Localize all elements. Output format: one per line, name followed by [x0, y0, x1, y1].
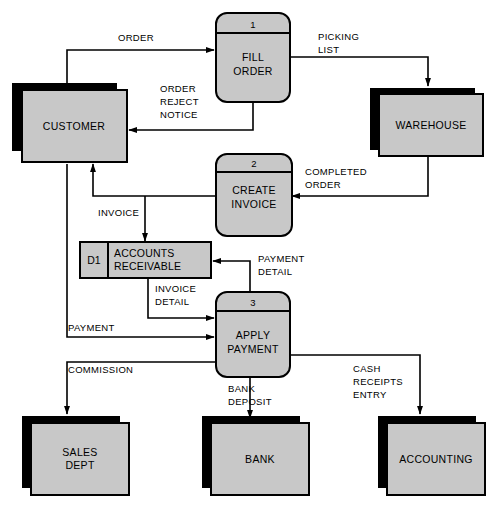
- flow-payment-detail-label-line1: PAYMENT: [258, 253, 305, 264]
- entity-sales-dept-label-line2: DEPT: [65, 459, 94, 471]
- process-fill-order-number: 1: [250, 19, 255, 30]
- process-fill-order-label-line1: FILL: [242, 51, 264, 63]
- flow-completed-order-label-line1: COMPLETED: [305, 166, 367, 177]
- entity-bank[interactable]: BANK: [202, 416, 309, 495]
- flow-order-reject-notice-label-line3: NOTICE: [160, 109, 198, 120]
- entity-customer[interactable]: CUSTOMER: [12, 83, 127, 162]
- flow-order-reject-notice-label-line2: REJECT: [160, 96, 199, 107]
- entity-bank-label: BANK: [245, 453, 275, 465]
- flow-commission-label: COMMISSION: [68, 364, 133, 375]
- process-fill-order[interactable]: 1 FILL ORDER: [216, 13, 290, 102]
- process-apply-payment-number: 3: [250, 297, 255, 308]
- process-apply-payment[interactable]: 3 APPLY PAYMENT: [216, 292, 290, 377]
- flow-payment-label: PAYMENT: [68, 322, 115, 333]
- flow-order-label: ORDER: [118, 32, 154, 43]
- flow-invoice-to-customer-line: [93, 164, 216, 196]
- flow-cash-receipts-entry-label-line3: ENTRY: [353, 389, 387, 400]
- flow-bank-deposit-label-line2: DEPOSIT: [228, 396, 272, 407]
- flow-picking-list-label-line2: LIST: [318, 44, 339, 55]
- entity-accounting-label: ACCOUNTING: [399, 453, 473, 465]
- process-apply-payment-label-line2: PAYMENT: [227, 343, 279, 355]
- entity-sales-dept-label-line1: SALES: [62, 446, 97, 458]
- process-apply-payment-label-line1: APPLY: [236, 329, 271, 341]
- flow-cash-receipts-entry-label-line1: CASH: [353, 363, 381, 374]
- dfd-svg: CUSTOMER WAREHOUSE SALES DEPT BANK ACCOU…: [0, 0, 489, 510]
- datastore-accounts-receivable-label-line2: RECEIVABLE: [114, 260, 181, 272]
- flow-bank-deposit-label-line1: BANK: [228, 383, 255, 394]
- process-fill-order-label-line2: ORDER: [233, 65, 273, 77]
- process-create-invoice[interactable]: 2 CREATE INVOICE: [216, 154, 292, 236]
- flow-payment-detail-label-line2: DETAIL: [258, 266, 292, 277]
- entity-warehouse-label: WAREHOUSE: [395, 119, 466, 131]
- process-create-invoice-number: 2: [251, 158, 256, 169]
- process-create-invoice-label-line1: CREATE: [232, 184, 276, 196]
- flow-invoice-label: INVOICE: [98, 207, 139, 218]
- flow-invoice-detail-label-line2: DETAIL: [155, 296, 189, 307]
- flow-cash-receipts-entry-label-line2: RECEIPTS: [353, 376, 403, 387]
- datastore-accounts-receivable-label-line1: ACCOUNTS: [114, 247, 175, 259]
- entity-customer-label: CUSTOMER: [43, 120, 105, 132]
- flow-picking-list-label-line1: PICKING: [318, 31, 359, 42]
- datastore-accounts-receivable-code: D1: [87, 254, 101, 266]
- datastore-accounts-receivable[interactable]: D1 ACCOUNTS RECEIVABLE: [80, 242, 211, 278]
- entity-sales-dept[interactable]: SALES DEPT: [22, 416, 129, 495]
- flow-completed-order-label-line2: ORDER: [305, 179, 341, 190]
- flow-picking-list-line: [290, 57, 428, 86]
- dfd-canvas: CUSTOMER WAREHOUSE SALES DEPT BANK ACCOU…: [0, 0, 489, 510]
- flow-payment-detail-line: [213, 261, 250, 291]
- process-create-invoice-label-line2: INVOICE: [231, 198, 276, 210]
- entity-warehouse[interactable]: WAREHOUSE: [370, 88, 483, 156]
- entity-accounting[interactable]: ACCOUNTING: [378, 416, 485, 495]
- flow-invoice-detail-label-line1: INVOICE: [155, 283, 196, 294]
- flow-order-reject-notice-label-line1: ORDER: [160, 83, 196, 94]
